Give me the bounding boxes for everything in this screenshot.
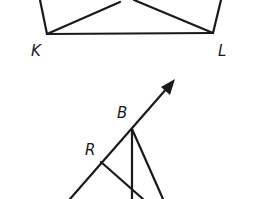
base-KL-line xyxy=(47,33,213,34)
label-L: L xyxy=(218,44,226,59)
left-side-line xyxy=(40,0,47,34)
R-diagonal-line xyxy=(101,162,143,199)
label-K: K xyxy=(31,44,41,59)
geometry-diagram: K L B R xyxy=(0,0,255,199)
L-to-top-line xyxy=(134,0,213,33)
label-R: R xyxy=(85,143,95,158)
label-B: B xyxy=(117,106,127,121)
K-to-top-line xyxy=(47,2,120,34)
B-diagonal-line xyxy=(132,129,163,199)
diagram-svg xyxy=(0,0,255,199)
right-side-line xyxy=(213,0,221,33)
